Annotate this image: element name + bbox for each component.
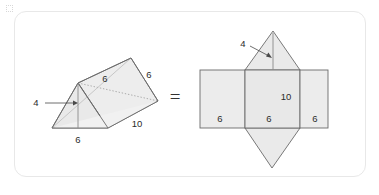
net-triangle-top xyxy=(245,31,300,70)
equals-symbol: = xyxy=(170,86,181,107)
net-label-rect-middle: 6 xyxy=(266,113,271,124)
prism-label-slant-right: 6 xyxy=(146,69,151,80)
net-triangle-bottom xyxy=(245,128,300,168)
net-label-triangle-height: 4 xyxy=(240,38,245,49)
prism-label-length: 10 xyxy=(132,118,143,129)
screenshot-root: 4 6 6 6 10 = 4 10 6 6 6 xyxy=(0,0,379,195)
geometry-figure: 4 6 6 6 10 = 4 10 6 6 6 xyxy=(0,0,379,195)
triangular-prism-net: 4 10 6 6 6 xyxy=(200,31,328,168)
net-label-rect-height: 10 xyxy=(281,91,292,102)
net-rect-middle xyxy=(245,70,300,128)
prism-label-height: 4 xyxy=(33,97,38,108)
net-label-rect-left: 6 xyxy=(217,113,222,124)
triangular-prism: 4 6 6 6 10 xyxy=(33,58,158,145)
prism-label-base: 6 xyxy=(75,134,80,145)
prism-label-slant-top: 6 xyxy=(102,73,107,84)
net-label-rect-right: 6 xyxy=(312,113,317,124)
